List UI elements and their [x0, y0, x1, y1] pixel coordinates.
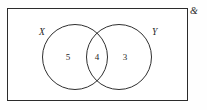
region-count-y-only: 3 [118, 53, 132, 62]
set-label-x: X [39, 27, 45, 37]
region-count-intersection: 4 [90, 53, 104, 62]
venn-diagram-canvas: & X Y 5 4 3 [0, 0, 207, 110]
universal-set-symbol: & [190, 6, 198, 16]
set-label-y: Y [152, 27, 157, 37]
region-count-x-only: 5 [61, 53, 75, 62]
